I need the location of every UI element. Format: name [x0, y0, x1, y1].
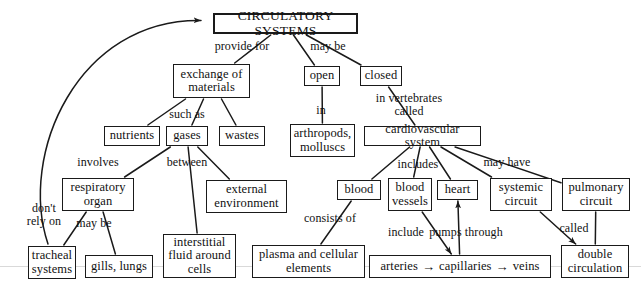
link-label-in: in: [311, 104, 331, 117]
right-arrow-icon: →: [422, 260, 435, 273]
edge-exchange-to-wastes: [222, 99, 236, 125]
node-gases[interactable]: gases: [166, 126, 208, 146]
node-blood[interactable]: blood: [337, 180, 381, 200]
node-open[interactable]: open: [304, 66, 340, 86]
node-interstitial-fluid[interactable]: interstitial fluid around cells: [163, 234, 236, 278]
node-gills-lungs[interactable]: gills, lungs: [85, 255, 153, 278]
node-blood-vessels[interactable]: blood vessels: [388, 178, 432, 211]
link-label-involves: involves: [71, 156, 125, 169]
node-arthropods-molluscs[interactable]: arthropods, molluscs: [290, 124, 355, 157]
vessel-chain: arteries→capillaries→veins: [380, 260, 539, 274]
link-label-may-be-left: may be: [70, 217, 118, 230]
node-double-circulation[interactable]: double circulation: [561, 245, 629, 278]
node-plasma-cellular-elements[interactable]: plasma and cellular elements: [252, 245, 365, 278]
node-heart[interactable]: heart: [437, 180, 478, 200]
node-tracheal-systems[interactable]: tracheal systems: [28, 246, 76, 279]
node-pulmonary-circuit[interactable]: pulmonary circuit: [562, 178, 630, 211]
chain-part-capillaries: capillaries: [439, 260, 491, 274]
node-circulatory-systems[interactable]: CIRCULATORY SYSTEMS: [213, 13, 358, 34]
concept-map-canvas: CIRCULATORY SYSTEMSexchange of materials…: [0, 0, 641, 289]
node-external-environment[interactable]: external environment: [206, 180, 287, 213]
right-arrow-icon: →: [496, 260, 509, 273]
node-exchange-of-materials[interactable]: exchange of materials: [173, 64, 250, 98]
link-label-such-as: such as: [163, 108, 211, 121]
node-arteries-capillaries-veins[interactable]: arteries→capillaries→veins: [369, 255, 551, 278]
node-closed[interactable]: closed: [360, 66, 402, 86]
link-label-called-bottom: called: [553, 222, 595, 235]
link-label-includes: includes: [392, 158, 444, 171]
node-systemic-circuit[interactable]: systemic circuit: [490, 178, 552, 211]
link-label-dont-rely-on: don't rely on: [20, 202, 68, 227]
link-label-in-vertebrates-called: in vertebrates called: [366, 92, 452, 117]
node-cardiovascular-system[interactable]: cardiovascular system: [364, 126, 481, 146]
link-label-may-be-top: may be: [303, 40, 353, 53]
node-nutrients[interactable]: nutrients: [104, 126, 160, 146]
link-label-between: between: [160, 156, 214, 169]
node-respiratory-organ[interactable]: respiratory organ: [62, 178, 134, 211]
link-label-provide-for: provide for: [206, 40, 278, 53]
link-label-consists-of: consists of: [297, 212, 363, 225]
chain-part-arteries: arteries: [380, 260, 418, 274]
chain-part-veins: veins: [513, 260, 540, 274]
link-label-pumps-through: pumps through: [420, 226, 512, 239]
node-wastes[interactable]: wastes: [219, 126, 265, 146]
link-label-may-have: may have: [477, 156, 537, 169]
